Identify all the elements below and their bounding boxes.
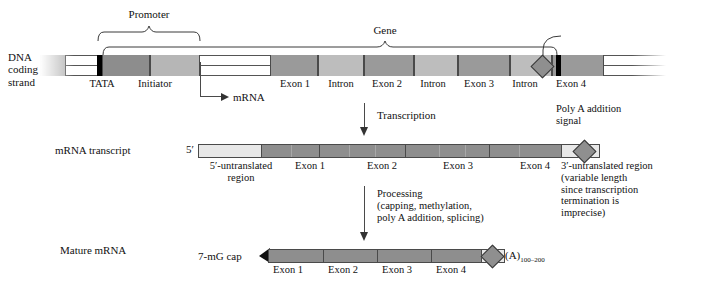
transcript-segment-exon2 [319,145,405,157]
polya-signal-label-line1: Poly A addition [556,103,621,115]
mrna-transcript-bar [198,144,600,158]
dna-segment-intron2 [414,55,458,76]
tata-black-marker [97,55,102,76]
mature-segment-exon2 [323,250,377,262]
transcript-divider-utr3 [561,145,562,157]
transcript-utr3-line5: imprecise) [561,207,653,219]
transcript-utr5-line1: 5′-untranslated [196,160,286,172]
processing-arrow-line [364,186,365,234]
dna-label-line3: strand [8,76,38,88]
transcript-utr3-line2: (variable length [561,172,653,184]
transcript-label-exon1: Exon 1 [287,160,333,172]
mature-label-exon2: Exon 2 [317,264,369,276]
transcript-segment-exon4 [489,145,561,157]
dna-label-exon2: Exon 2 [364,78,410,90]
strand-fade-right [632,55,666,76]
transcript-subdivider-3 [439,145,440,157]
dna-segment-initiator [150,55,200,76]
gene-label: Gene [355,24,415,36]
polya-signal-label-line2: signal [556,115,621,127]
polya-tail-text: (A) [505,249,520,261]
transcript-utr3-line4: termination is [561,195,653,207]
transcript-utr3-line3: since transcription [561,184,653,196]
transcript-subdivider-0 [291,145,292,157]
mature-divider-exon3 [377,250,378,262]
dna-label-intron1: Intron [318,78,364,90]
processing-line2: (capping, methylation, [377,200,484,212]
transcript-divider-exon2 [319,145,320,157]
mature-cap-label: 7-mG cap [198,250,242,262]
mature-label-exon3: Exon 3 [371,264,423,276]
mature-mrna-bar [268,249,505,263]
processing-arrowhead [360,232,368,241]
dna-segment-exon3 [458,55,510,76]
dna-coding-strand-label: DNA coding strand [8,51,38,88]
transcript-five-prime-label: 5′ [186,143,194,155]
transcription-arrowhead [360,127,368,136]
transcript-label-exon4: Exon 4 [512,160,558,172]
transcript-divider-exon1 [261,145,262,157]
mature-divider-exon2 [323,250,324,262]
processing-line3: poly A addition, splicing) [377,212,484,224]
transcript-utr3-line1: 3′-untranslated region [561,160,653,172]
mature-label-exon4: Exon 4 [425,264,477,276]
transcript-subdivider-1 [349,145,350,157]
mrna-start-hline [200,96,222,97]
mature-mrna-row-label: Mature mRNA [60,244,126,256]
mature-segment-exon4 [431,250,481,262]
transcript-segment-exon1 [261,145,319,157]
transcript-subdivider-4 [465,145,466,157]
promoter-label: Promoter [99,8,199,20]
dna-label-exon3: Exon 3 [456,78,502,90]
polya-signal-label: Poly A addition signal [556,103,621,127]
strand-fade-left [40,55,74,76]
mature-segment-exon3 [377,250,431,262]
transcript-utr5-line2: region [196,172,286,184]
polya-tail-subscript: 100–200 [520,256,545,264]
dna-segment-exon1 [270,55,318,76]
dna-label-tata: TATA [79,78,125,90]
dna-segment-intron1 [318,55,364,76]
processing-label: Processing (capping, methylation, poly A… [377,188,484,223]
transcript-divider-exon4 [489,145,490,157]
dna-label-initiator: Initiator [126,78,184,90]
transcript-label-exon2: Exon 2 [359,160,405,172]
dna-label-line1: DNA [8,51,38,63]
dna-coding-strand [40,55,666,76]
transcript-segment-utr5 [199,145,261,157]
mature-divider-exon4 [431,250,432,262]
transcript-label-exon3: Exon 3 [435,160,481,172]
mature-segment-exon1 [269,250,323,262]
transcript-utr5-label: 5′-untranslated region [196,160,286,184]
mature-label-exon1: Exon 1 [262,264,314,276]
dna-label-intron2: Intron [410,78,456,90]
transcription-arrow-line [364,103,365,129]
transcript-utr3-label: 3′-untranslated region (variable length … [561,160,653,219]
dna-label-exon1: Exon 1 [272,78,318,90]
dna-label-line2: coding [8,63,38,75]
transcript-subdivider-2 [375,145,376,157]
mrna-transcript-row-label: mRNA transcript [55,144,130,156]
transcription-label: Transcription [377,109,436,121]
processing-line1: Processing [377,188,484,200]
dna-segment-exon2 [364,55,414,76]
transcript-divider-exon3 [405,145,406,157]
mrna-start-label: mRNA [233,91,265,103]
transcription-stop-marker [556,55,561,76]
dna-segment-tata [102,55,150,76]
mrna-start-arrowhead [221,93,229,101]
polya-tail-label: (A)100–200 [505,249,545,265]
mrna-start-vline [200,62,201,97]
transcript-subdivider-5 [519,145,520,157]
transcript-segment-exon3 [405,145,489,157]
